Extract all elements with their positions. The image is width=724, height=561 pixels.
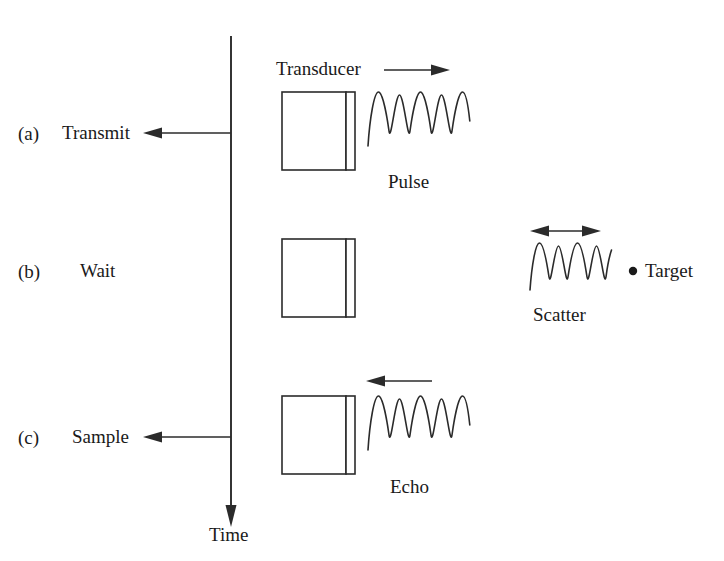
pulse-echo-diagram: (a) Transmit (b) Wait (c) Sample Transdu… (0, 0, 724, 561)
row-label-wait: Wait (80, 261, 115, 280)
scatter-label: Scatter (533, 305, 586, 324)
scatter-waveform (530, 243, 612, 290)
echo-waveform (368, 396, 470, 450)
time-axis-label: Time (209, 525, 248, 544)
target-label: Target (645, 261, 693, 280)
row-label-transmit: Transmit (62, 123, 130, 142)
row-enumerator-b: (b) (18, 262, 40, 281)
transducer-label: Transducer (276, 59, 361, 78)
row-enumerator-a: (a) (18, 124, 39, 143)
transducer-box-transmit (282, 92, 355, 170)
scatter-direction-arrow (530, 226, 601, 237)
pulse-waveform (368, 92, 470, 146)
arrow-left-icon (530, 226, 549, 237)
arrow-left-icon (143, 128, 162, 139)
row-transmit-tick-arrow (143, 128, 231, 139)
arrow-left-icon (143, 432, 162, 443)
row-sample-tick-arrow (143, 432, 231, 443)
row-enumerator-c: (c) (18, 428, 39, 447)
echo-label: Echo (390, 477, 429, 496)
time-axis (226, 36, 237, 527)
transducer-box-wait (282, 239, 355, 317)
arrow-left-icon (366, 376, 385, 387)
transducer-direction-arrow (384, 65, 450, 76)
transducer-box-sample (282, 396, 355, 474)
arrow-right-icon (582, 226, 601, 237)
row-label-sample: Sample (72, 427, 129, 446)
arrow-right-icon (431, 65, 450, 76)
pulse-label: Pulse (388, 172, 429, 191)
echo-direction-arrow (366, 376, 432, 387)
target-dot-icon (629, 267, 637, 275)
